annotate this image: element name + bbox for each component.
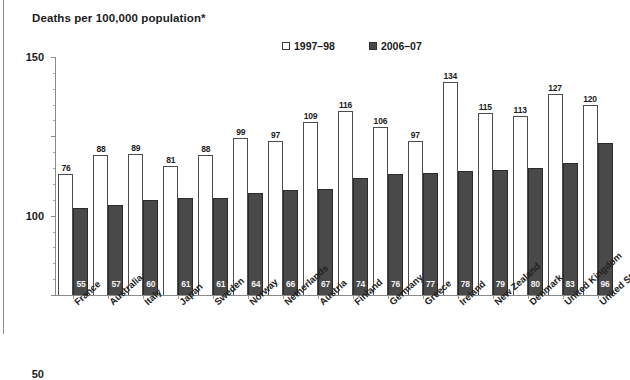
bar-2006-07: 61 [213, 198, 228, 295]
x-label-cell: Norway [231, 299, 266, 377]
bar-group: 10967 [301, 57, 336, 295]
x-label-cell: Ireland [441, 299, 476, 377]
bar-value-label: 97 [411, 130, 420, 140]
bar-1997-98: 120 [583, 105, 598, 295]
x-label-cell: France [56, 299, 91, 377]
bar-group: 8861 [196, 57, 231, 295]
bar-1997-98: 106 [373, 127, 388, 295]
chart-legend: 1997–98 2006–07 [282, 40, 422, 52]
bar-2006-07: 64 [248, 193, 263, 295]
dark-square-icon [369, 42, 377, 50]
bar-value-label: 115 [479, 102, 492, 112]
bar-1997-98: 116 [338, 111, 353, 295]
bar-2006-07: 77 [423, 173, 438, 295]
bar-group: 9777 [405, 57, 440, 295]
x-label-cell: United Kingdom [546, 299, 581, 377]
bar-value-label: 88 [96, 144, 105, 154]
bar-value-label: 99 [236, 127, 245, 137]
page-edge-rule [3, 0, 4, 334]
light-square-icon [282, 42, 290, 50]
y-tick-label: 150 [26, 51, 44, 63]
bar-2006-07: 76 [388, 174, 403, 295]
chart-axis-title: Deaths per 100,000 population* [32, 12, 206, 24]
bar-group: 11579 [475, 57, 510, 295]
legend-item-1997-98: 1997–98 [282, 40, 335, 52]
bar-2006-07: 61 [178, 198, 193, 295]
bar-1997-98: 81 [163, 166, 178, 295]
bar-value-label: 127 [548, 83, 562, 93]
bar-value-label: 97 [271, 130, 280, 140]
bar-group: 8161 [161, 57, 196, 295]
x-label-cell: Netherlands [266, 299, 301, 377]
y-tick-minor [53, 184, 55, 185]
legend-label-1997-98: 1997–98 [294, 40, 335, 52]
x-label-cell: United States [581, 299, 616, 377]
bar-value-label: 88 [201, 144, 210, 154]
bar-group: 11380 [510, 57, 545, 295]
x-axis-labels: FranceAustraliaItalyJapanSwedenNorwayNet… [56, 299, 616, 377]
y-tick-mark: 50 [51, 216, 55, 217]
x-label-cell: Austria [301, 299, 336, 377]
bar-1997-98: 76 [58, 174, 73, 295]
bar-groups: 7655885789608161886199649766109671167410… [56, 57, 615, 295]
bar-1997-98: 134 [443, 82, 458, 295]
bar-value-label: 109 [304, 111, 318, 121]
bar-group: 10676 [370, 57, 405, 295]
x-label-cell: Sweden [196, 299, 231, 377]
y-tick-label: 100 [26, 210, 44, 222]
x-label-cell: Germany [371, 299, 406, 377]
bar-2006-07: 74 [353, 178, 368, 295]
bar-group: 9766 [266, 57, 301, 295]
x-label-cell: Australia [91, 299, 126, 377]
bar-group: 7655 [56, 57, 91, 295]
y-tick-minor [53, 200, 55, 201]
y-tick-minor [53, 73, 55, 74]
bar-2006-07: 78 [458, 171, 473, 295]
bar-value-label: 106 [374, 116, 388, 126]
bar-2006-07: 79 [493, 170, 508, 295]
y-tick-mark: 150 [51, 57, 55, 58]
legend-item-2006-07: 2006–07 [369, 40, 422, 52]
y-tick-minor [53, 168, 55, 169]
y-tick-minor [53, 105, 55, 106]
x-label-cell: Finland [336, 299, 371, 377]
y-tick-minor [53, 263, 55, 264]
bar-value-label: 120 [583, 94, 597, 104]
y-tick-minor [53, 232, 55, 233]
bar-1997-98: 115 [478, 113, 493, 295]
legend-label-2006-07: 2006–07 [381, 40, 422, 52]
bar-group: 11674 [336, 57, 371, 295]
x-label-cell: Greece [406, 299, 441, 377]
bar-value-label: 81 [166, 155, 175, 165]
bar-value-label: 76 [61, 163, 70, 173]
bar-2006-07: 57 [108, 205, 123, 295]
y-tick-minor [53, 247, 55, 248]
y-tick-label: 50 [32, 368, 44, 380]
y-tick-minor [53, 152, 55, 153]
y-tick-mark: 100 [51, 136, 55, 137]
bar-1997-98: 97 [268, 141, 283, 295]
bar-value-label: 113 [514, 105, 527, 115]
y-tick-minor [53, 279, 55, 280]
bar-2006-07: 66 [283, 190, 298, 295]
bar-group: 13478 [440, 57, 475, 295]
plot-area: 050100150 765588578960816188619964976610… [55, 57, 615, 295]
x-label-cell: New Zealand [476, 299, 511, 377]
bar-group: 12783 [545, 57, 580, 295]
bar-1997-98: 99 [233, 138, 248, 295]
bar-1997-98: 88 [93, 155, 108, 295]
bar-value-label: 134 [443, 71, 457, 81]
bar-1997-98: 127 [548, 94, 563, 296]
bar-group: 8960 [126, 57, 161, 295]
y-tick-minor [53, 89, 55, 90]
y-tick-minor [53, 120, 55, 121]
bar-2006-07: 60 [143, 200, 158, 295]
y-tick-mark: 0 [51, 295, 55, 296]
bar-group: 8857 [91, 57, 126, 295]
bar-value-label: 89 [131, 143, 140, 153]
chart-figure: Deaths per 100,000 population* 1997–98 2… [0, 0, 630, 380]
bar-group: 9964 [231, 57, 266, 295]
x-label-cell: Denmark [511, 299, 546, 377]
bar-2006-07: 83 [563, 163, 578, 295]
x-label-cell: Japan [161, 299, 196, 377]
